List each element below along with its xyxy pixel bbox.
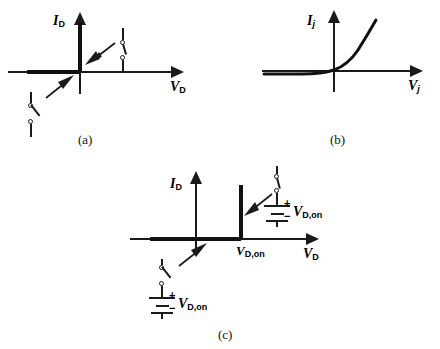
panel-b-x-axis-label: Vj (408, 79, 420, 93)
off-state-battery-icon: + − (145, 292, 179, 322)
panel-b-caption: (b) (330, 132, 345, 148)
on-state-battery-label: VD,on (293, 205, 322, 219)
panel-c-y-axis-label: ID (170, 177, 182, 191)
panel-c-x-axis-arrowhead (306, 233, 319, 245)
battery-minus-sign: − (284, 211, 290, 222)
panel-a-caption: (a) (78, 132, 92, 148)
battery-plus-sign: + (169, 290, 175, 301)
panel-a-curve-forward-segment (78, 22, 82, 72)
panel-c-y-axis-arrowhead (190, 171, 202, 184)
panel-a-pointer-to-reverse-branch (44, 74, 78, 100)
battery-minus-sign: − (169, 303, 175, 314)
panel-a-x-axis-arrowhead (171, 66, 184, 78)
panel-c-pointer-to-on-branch (242, 191, 274, 217)
panel-b-exponential-diode: Ij Vj (b) (250, 0, 440, 160)
panel-c-von-tick-label: VD,on (236, 244, 265, 257)
panel-c-x-axis-label: VD (303, 247, 319, 261)
battery-plus-sign: + (284, 198, 290, 209)
panel-a-pointer-to-forward-branch (83, 40, 117, 66)
panel-a-x-axis-label: VD (170, 80, 186, 94)
panel-a-ideal-diode: ID VD (a) (0, 0, 220, 160)
off-state-battery-label: VD,on (178, 297, 207, 311)
panel-c-curve-off-segment (150, 237, 241, 241)
battery-negative-plate (156, 305, 169, 307)
panel-c-pointer-to-off-branch (177, 242, 209, 268)
panel-c-caption: (c) (218, 327, 232, 343)
panel-a-y-axis-label: ID (53, 14, 65, 28)
panel-b-y-axis-label: Ij (307, 14, 315, 28)
panel-c-constant-voltage-drop: ID VD VD,on + − VD,on (130, 165, 360, 349)
